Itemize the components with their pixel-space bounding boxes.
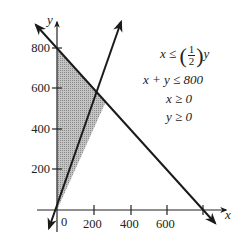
fraction-one-half: 12 — [188, 44, 196, 67]
inequality-1: x ≤ (12)y — [160, 44, 209, 67]
x-tick-400: 400 — [120, 218, 139, 231]
y-tick-400: 400 — [20, 123, 50, 136]
y-tick-600: 600 — [20, 82, 50, 95]
x-tick-600: 600 — [156, 218, 175, 231]
y-tick-800: 800 — [20, 42, 50, 55]
x-axis-label: x — [225, 208, 231, 221]
right-paren: ) — [196, 43, 203, 68]
ineq1-rhs: y — [204, 46, 210, 61]
inequality-3: x ≥ 0 — [166, 92, 192, 105]
left-paren: ( — [179, 43, 186, 68]
y-axis-label: y — [47, 13, 53, 26]
feasible-region-graph — [0, 0, 245, 241]
y-tick-200: 200 — [20, 163, 50, 176]
x-tick-0: 0 — [61, 216, 67, 229]
inequality-4: y ≥ 0 — [166, 110, 192, 123]
inequality-2: x + y ≤ 800 — [143, 73, 203, 86]
ineq1-op: ≤ — [166, 46, 180, 61]
x-tick-200: 200 — [83, 218, 102, 231]
